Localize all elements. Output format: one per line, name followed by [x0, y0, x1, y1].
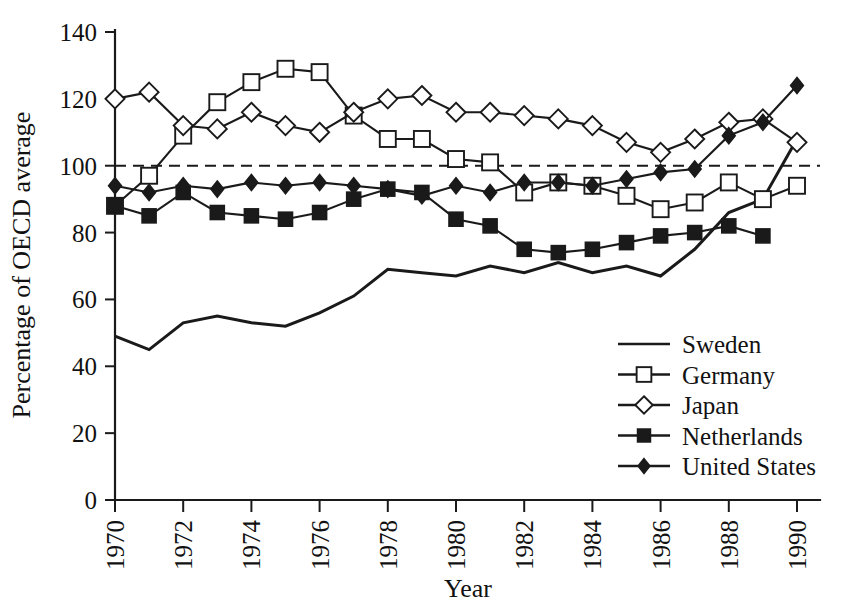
marker-filled-square — [108, 199, 122, 213]
marker-filled-square — [142, 209, 156, 223]
x-axis-title: Year — [444, 574, 492, 603]
x-tick-label: 1972 — [170, 520, 197, 570]
marker-filled-diamond — [211, 181, 224, 197]
y-tick-label: 40 — [72, 353, 97, 380]
y-tick-label: 80 — [72, 220, 97, 247]
marker-filled-square — [688, 226, 702, 240]
marker-open-diamond — [481, 103, 500, 122]
x-tick-label: 1988 — [716, 520, 743, 570]
marker-open-diamond — [583, 116, 602, 135]
marker-filled-square — [449, 212, 463, 226]
marker-open-square — [141, 168, 157, 184]
marker-filled-diamond — [279, 178, 292, 194]
x-tick-label: 1986 — [648, 520, 675, 570]
marker-open-diamond — [685, 129, 704, 148]
marker-open-diamond — [208, 119, 227, 138]
legend-item-united-states: United States — [618, 453, 816, 480]
marker-open-square — [243, 74, 259, 90]
legend-item-japan: Japan — [618, 392, 739, 419]
series-group — [106, 61, 807, 350]
marker-filled-diamond — [654, 164, 667, 180]
marker-open-square — [619, 188, 635, 204]
marker-filled-diamond — [313, 174, 326, 190]
marker-open-square — [755, 191, 771, 207]
series-netherlands — [108, 182, 770, 260]
x-tick-label: 1978 — [375, 520, 402, 570]
legend-label: Sweden — [682, 331, 762, 358]
marker-open-diamond — [106, 89, 125, 108]
marker-filled-diamond — [245, 174, 258, 190]
marker-filled-diamond — [620, 171, 633, 187]
marker-open-square — [278, 61, 294, 77]
marker-open-diamond — [549, 109, 568, 128]
marker-open-diamond — [447, 103, 466, 122]
marker-filled-square — [756, 229, 770, 243]
marker-open-diamond — [651, 143, 670, 162]
marker-filled-square — [620, 236, 634, 250]
y-tick-label: 60 — [72, 286, 97, 313]
marker-open-square — [482, 154, 498, 170]
x-tick-label: 1970 — [102, 520, 129, 570]
x-axis-ticks — [115, 500, 797, 512]
legend-label: Japan — [682, 392, 739, 419]
marker-filled-square — [517, 242, 531, 256]
x-tick-label: 1976 — [307, 520, 334, 570]
marker-filled-square — [210, 206, 224, 220]
y-axis-tick-labels: 020406080100120140 — [60, 19, 98, 514]
marker-filled-square — [722, 219, 736, 233]
marker-filled-diamond — [450, 178, 463, 194]
legend-item-sweden: Sweden — [618, 331, 762, 358]
marker-open-square — [312, 64, 328, 80]
marker-open-square — [687, 194, 703, 210]
marker-filled-square — [483, 219, 497, 233]
marker-filled-square — [585, 242, 599, 256]
marker-open-diamond — [635, 396, 652, 413]
y-tick-label: 20 — [72, 420, 97, 447]
x-tick-label: 1974 — [238, 520, 265, 571]
marker-open-diamond — [378, 89, 397, 108]
marker-filled-square — [279, 212, 293, 226]
legend-label: Netherlands — [682, 423, 803, 450]
y-axis-title: Percentage of OECD average — [7, 112, 36, 419]
y-tick-label: 0 — [85, 487, 98, 514]
marker-open-square — [789, 178, 805, 194]
x-tick-label: 1984 — [579, 520, 606, 571]
marker-filled-diamond — [109, 178, 122, 194]
marker-open-square — [414, 131, 430, 147]
marker-open-square — [380, 131, 396, 147]
chart-figure: 020406080100120140 197019721974197619781… — [0, 0, 842, 613]
legend-item-netherlands: Netherlands — [618, 423, 803, 450]
x-tick-label: 1990 — [784, 520, 811, 570]
marker-open-square — [721, 174, 737, 190]
marker-filled-square — [244, 209, 258, 223]
x-tick-label: 1982 — [511, 520, 538, 570]
marker-filled-diamond — [638, 459, 650, 474]
chart-legend: SwedenGermanyJapanNetherlandsUnited Stat… — [618, 331, 816, 480]
marker-open-square — [653, 201, 669, 217]
marker-filled-square — [551, 246, 565, 260]
marker-filled-diamond — [484, 184, 497, 200]
marker-filled-square — [313, 206, 327, 220]
y-tick-label: 100 — [60, 153, 98, 180]
x-axis-tick-labels: 1970197219741976197819801982198419861988… — [102, 520, 811, 571]
marker-open-square — [637, 367, 652, 382]
marker-open-square — [209, 94, 225, 110]
marker-open-diamond — [617, 133, 636, 152]
legend-label: United States — [682, 453, 816, 480]
marker-open-diamond — [310, 123, 329, 142]
y-tick-label: 120 — [60, 86, 98, 113]
legend-label: Germany — [682, 362, 776, 389]
marker-open-diamond — [515, 106, 534, 125]
marker-filled-square — [654, 229, 668, 243]
y-tick-label: 140 — [60, 19, 98, 46]
marker-filled-square — [638, 429, 651, 442]
marker-open-diamond — [242, 103, 261, 122]
line-chart-canvas: 020406080100120140 197019721974197619781… — [0, 0, 842, 613]
marker-filled-diamond — [143, 184, 156, 200]
legend-item-germany: Germany — [618, 362, 776, 389]
marker-open-diamond — [412, 86, 431, 105]
marker-open-diamond — [276, 116, 295, 135]
marker-open-square — [448, 151, 464, 167]
x-tick-label: 1980 — [443, 520, 470, 570]
